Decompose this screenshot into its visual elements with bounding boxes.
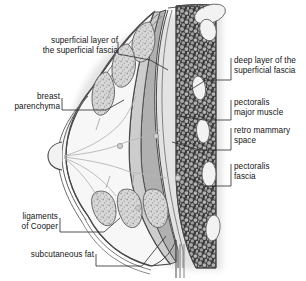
label-superficial-layer: superficial layer of the superficial fas…	[16, 36, 118, 56]
label-deep-layer-line2: superficial fascia	[234, 66, 306, 76]
label-superficial-layer-line1: superficial layer of	[16, 36, 118, 46]
label-pectoralis-fascia-line1: pectoralis	[234, 162, 306, 172]
label-subcutaneous-fat: subcutaneous fat	[10, 250, 94, 260]
label-cooper-ligaments-line1: ligaments	[8, 212, 58, 222]
label-pectoralis-major-line2: major muscle	[234, 108, 306, 118]
fat-lobules-lower	[92, 189, 168, 227]
label-retromammary-space: retro mammary space	[234, 126, 306, 146]
label-pectoralis-fascia: pectoralis fascia	[234, 162, 306, 182]
label-breast-parenchyma: breast parenchyma	[10, 92, 60, 112]
label-retromammary-line1: retro mammary	[234, 126, 306, 136]
label-subcutaneous-fat-text: subcutaneous fat	[10, 250, 94, 260]
label-breast-parenchyma-line2: parenchyma	[10, 102, 60, 112]
label-pectoralis-major-line1: pectoralis	[234, 98, 306, 108]
label-cooper-ligaments-line2: of Cooper	[8, 222, 58, 232]
label-breast-parenchyma-line1: breast	[10, 92, 60, 102]
label-cooper-ligaments: ligaments of Cooper	[8, 212, 58, 232]
label-deep-layer-line1: deep layer of the	[234, 56, 306, 66]
label-deep-layer: deep layer of the superficial fascia	[234, 56, 306, 76]
label-pectoralis-major: pectoralis major muscle	[234, 98, 306, 118]
label-pectoralis-fascia-line2: fascia	[234, 172, 306, 182]
label-superficial-layer-line2: the superficial fascia	[16, 46, 118, 56]
label-retromammary-line2: space	[234, 136, 306, 146]
anatomy-figure: superficial layer of the superficial fas…	[0, 0, 306, 281]
